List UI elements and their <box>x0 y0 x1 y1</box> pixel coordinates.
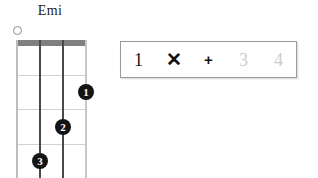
chord-practice-view: Emi 123 1✕+34 <box>0 0 318 178</box>
string-3 <box>62 40 64 178</box>
beat-5-number[interactable]: 4 <box>261 51 296 69</box>
beat-2-strum[interactable]: ✕ <box>156 50 191 69</box>
open-string-icon <box>13 26 22 35</box>
fret-line <box>16 75 87 76</box>
fret-line <box>16 144 87 145</box>
beat-1-number[interactable]: 1 <box>121 51 156 69</box>
open-string-markers <box>16 24 88 38</box>
finger-dot-3[interactable]: 3 <box>32 153 48 169</box>
string-4 <box>85 40 87 178</box>
finger-dot-1[interactable]: 1 <box>78 84 94 100</box>
finger-dot-2[interactable]: 2 <box>55 119 71 135</box>
beat-3-plus[interactable]: + <box>191 52 226 67</box>
rhythm-pattern-panel[interactable]: 1✕+34 <box>120 41 297 78</box>
fret-line <box>16 109 87 110</box>
chord-name-label: Emi <box>0 3 100 19</box>
nut-bar <box>16 40 87 46</box>
beat-4-number[interactable]: 3 <box>226 51 261 69</box>
fretboard-grid[interactable]: 123 <box>16 40 87 178</box>
string-1 <box>16 40 18 178</box>
chord-diagram: Emi 123 <box>0 0 110 178</box>
